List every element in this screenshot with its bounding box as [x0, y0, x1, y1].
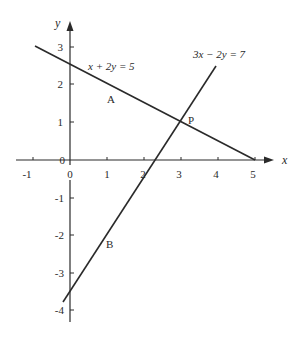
x-axis: [16, 157, 274, 164]
y-axis-arrow-icon: [67, 21, 74, 31]
region-label-b: B: [106, 238, 113, 250]
y-tick-label: -2: [55, 229, 64, 241]
x-tick-label: -1: [22, 168, 31, 180]
x-tick-label: 1: [104, 168, 110, 180]
y-tick-label: -3: [55, 267, 65, 279]
x-axis-label: x: [281, 153, 288, 167]
region-label-a: A: [107, 93, 115, 105]
y-tick-label: -1: [55, 192, 64, 204]
y-tick-label: 2: [58, 78, 64, 90]
x-axis-arrow-icon: [264, 157, 274, 164]
y-tick-label: 1: [58, 116, 64, 128]
x-tick-labels: -1 0 1 2 3 4 5: [22, 168, 256, 180]
y-tick-labels: 3 2 1 0 -1 -2 -3 -4: [55, 41, 66, 316]
x-tick-label: 3: [176, 168, 182, 180]
line-3x-minus-2y-eq-7: [63, 66, 216, 302]
intersection-label-p: P: [188, 114, 194, 126]
coordinate-graph: y x -1 0 1 2 3 4 5 3 2 1 0 -1 -2 -3 -4 x…: [0, 0, 302, 338]
x-tick-label: 5: [250, 168, 256, 180]
y-tick-label: 0: [60, 154, 66, 166]
y-axis-label: y: [54, 16, 61, 30]
line-x-plus-2y-eq-5: [35, 46, 255, 160]
y-tick-label: -4: [55, 304, 65, 316]
y-tick-label: 3: [58, 41, 64, 53]
equation-label-line-1: x + 2y = 5: [87, 60, 135, 72]
x-tick-label: 0: [67, 168, 73, 180]
x-tick-label: 4: [213, 168, 219, 180]
equation-label-line-2: 3x − 2y = 7: [192, 48, 246, 60]
